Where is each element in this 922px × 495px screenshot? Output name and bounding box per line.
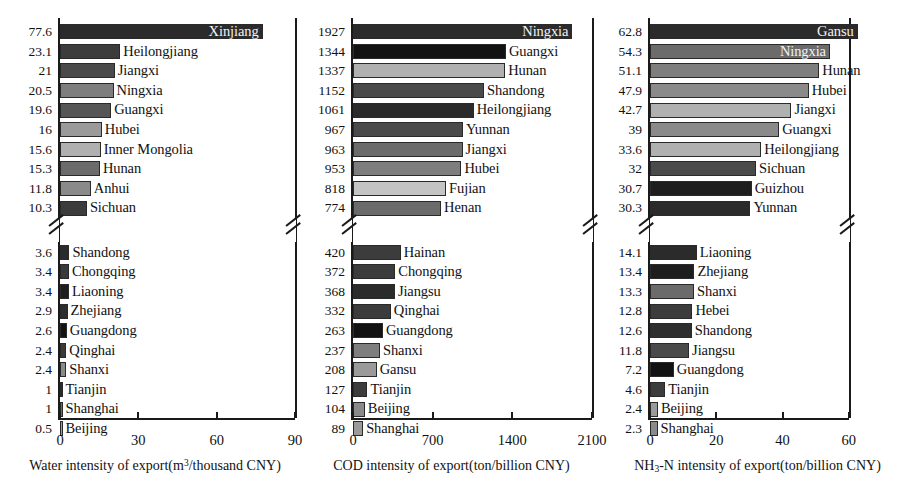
bar xyxy=(353,304,391,319)
x-axis-tick-label: 20 xyxy=(691,432,741,449)
bar xyxy=(650,201,750,216)
bar xyxy=(353,402,365,417)
bar-value-label: 23.1 xyxy=(28,42,52,62)
bar-value-label: 7.2 xyxy=(625,360,642,380)
bar-category-label: Shandong xyxy=(487,81,544,101)
bar-row: 818Fujian xyxy=(294,179,606,199)
x-axis-tick xyxy=(715,412,717,418)
bar xyxy=(60,343,66,358)
x-axis-tick xyxy=(59,412,61,418)
bar xyxy=(353,122,463,137)
bar-value-label: 368 xyxy=(325,282,345,302)
bar-category-label: Tianjin xyxy=(370,380,411,400)
bar-value-label: 420 xyxy=(325,243,345,263)
bar-row: 953Hubei xyxy=(294,159,606,179)
bar xyxy=(650,103,791,118)
bar-category-label: Shanxi xyxy=(69,360,109,380)
bar-category-label: Jiangxi xyxy=(794,100,835,120)
x-axis-tick xyxy=(432,412,434,418)
bar-row: 967Yunnan xyxy=(294,120,606,140)
x-axis-title: NH3-N intensity of export(ton/billion CN… xyxy=(595,458,920,474)
bar-row: 368Jiangsu xyxy=(294,282,606,302)
bar-row: 1Tianjin xyxy=(0,380,310,400)
bar-value-label: 1344 xyxy=(318,42,345,62)
bar-category-label: Heilongjiang xyxy=(477,100,552,120)
bar-value-label: 13.4 xyxy=(618,262,642,282)
bar-row: 47.9Hubei xyxy=(590,81,922,101)
bar-category-label: Chongqing xyxy=(398,262,462,282)
bar-row: 237Shanxi xyxy=(294,341,606,361)
bar-value-label: 47.9 xyxy=(618,81,642,101)
bar-row: 12.8Hebei xyxy=(590,301,922,321)
bar xyxy=(60,83,114,98)
bar-value-label: 127 xyxy=(325,380,345,400)
bar-row: 51.1Hunan xyxy=(590,61,922,81)
bar-value-label: 3.4 xyxy=(35,262,52,282)
bar xyxy=(353,181,446,196)
x-axis-title: Water intensity of export(m3/thousand CN… xyxy=(5,458,305,474)
figure-panels: 77.6Xinjiang23.1Heilongjiang21Jiangxi20.… xyxy=(0,0,922,495)
bar-category-label: Guangdong xyxy=(386,321,453,341)
bar-category-label: Shanghai xyxy=(66,399,119,419)
bar xyxy=(650,402,658,417)
bar-row: 2.4Qinghai xyxy=(0,341,310,361)
bar-value-label: 1 xyxy=(45,380,52,400)
bar-category-label: Qinghai xyxy=(394,301,440,321)
bar-row: 3.4Liaoning xyxy=(0,282,310,302)
bar xyxy=(353,63,505,78)
bar-value-label: 20.5 xyxy=(28,81,52,101)
bar-category-label: Shandong xyxy=(695,321,752,341)
x-axis-tick-label: 700 xyxy=(408,432,458,449)
bar-row: 4.6Tianjin xyxy=(590,380,922,400)
bar-value-label: 33.6 xyxy=(618,140,642,160)
x-axis-tick-label: 30 xyxy=(113,432,163,449)
bar xyxy=(353,343,380,358)
bar-value-label: 1337 xyxy=(318,61,345,81)
bar-value-label: 21 xyxy=(39,61,53,81)
bar-value-label: 2.4 xyxy=(35,341,52,361)
bar xyxy=(650,161,756,176)
axis-break-left xyxy=(343,219,360,241)
bar xyxy=(60,201,87,216)
x-axis-tick-label: 60 xyxy=(192,432,242,449)
bar-category-label: Gansu xyxy=(817,22,854,42)
bar-category-label: Qinghai xyxy=(69,341,115,361)
bar-category-label: Zhejiang xyxy=(71,301,122,321)
x-axis-tick-label: 40 xyxy=(758,432,808,449)
x-axis-tick xyxy=(352,412,354,418)
bar-category-label: Yunnan xyxy=(753,198,797,218)
bar-value-label: 30.3 xyxy=(618,198,642,218)
bar xyxy=(353,142,463,157)
bar xyxy=(650,264,694,279)
bar-row: 774Henan xyxy=(294,198,606,218)
bar-value-label: 12.8 xyxy=(618,301,642,321)
bar xyxy=(60,264,69,279)
bar-value-label: 19.6 xyxy=(28,100,52,120)
x-axis-tick xyxy=(511,412,513,418)
bar-value-label: 963 xyxy=(325,140,345,160)
bar-row: 1Shanghai xyxy=(0,399,310,419)
bar-value-label: 953 xyxy=(325,159,345,179)
bar-category-label: Sichuan xyxy=(90,198,136,218)
bar xyxy=(60,44,120,59)
bar-value-label: 237 xyxy=(325,341,345,361)
bar-row: 11.8Anhui xyxy=(0,179,310,199)
bar-row: 3.6Shandong xyxy=(0,243,310,263)
chart-panel-nh3n: 62.8Gansu54.3Ningxia51.1Hunan47.9Hubei42… xyxy=(590,0,922,495)
bar-category-label: Hubei xyxy=(812,81,847,101)
x-axis-tick xyxy=(782,412,784,418)
bar-row: 62.8Gansu xyxy=(590,22,922,42)
bar-category-label: Liaoning xyxy=(700,243,752,263)
bar-row: 263Guangdong xyxy=(294,321,606,341)
bar xyxy=(353,245,401,260)
bar xyxy=(60,122,102,137)
bar-value-label: 332 xyxy=(325,301,345,321)
bar-value-label: 818 xyxy=(325,179,345,199)
bar-row: 19.6Guangxi xyxy=(0,100,310,120)
bar-category-label: Guizhou xyxy=(755,179,804,199)
bar-row: 20.5Ningxia xyxy=(0,81,310,101)
bar-category-label: Gansu xyxy=(380,360,417,380)
bar-category-label: Shandong xyxy=(72,243,129,263)
bar-row: 13.3Shanxi xyxy=(590,282,922,302)
bar-category-label: Guangdong xyxy=(70,321,137,341)
